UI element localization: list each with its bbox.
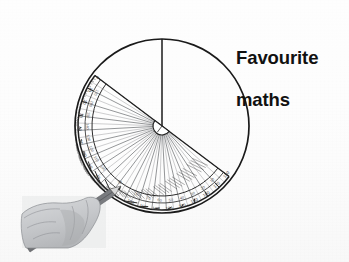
svg-text:60: 60 <box>157 198 162 202</box>
svg-text:120: 120 <box>152 205 160 211</box>
caption-text: Favourite maths <box>236 26 348 131</box>
svg-text:140: 140 <box>85 123 89 130</box>
svg-text:40: 40 <box>77 126 82 132</box>
caption-line-1: Favourite <box>236 47 348 68</box>
svg-text:150: 150 <box>86 112 91 119</box>
svg-text:50: 50 <box>169 198 173 202</box>
svg-text:130: 130 <box>165 205 173 210</box>
svg-text:180: 180 <box>222 170 231 179</box>
slide-canvas: 0 10 20 30 40 50 60 70 80 90 100 110 120… <box>0 0 349 262</box>
caption-line-2: maths <box>236 89 348 110</box>
hand-with-pencil-illustration <box>21 186 121 252</box>
